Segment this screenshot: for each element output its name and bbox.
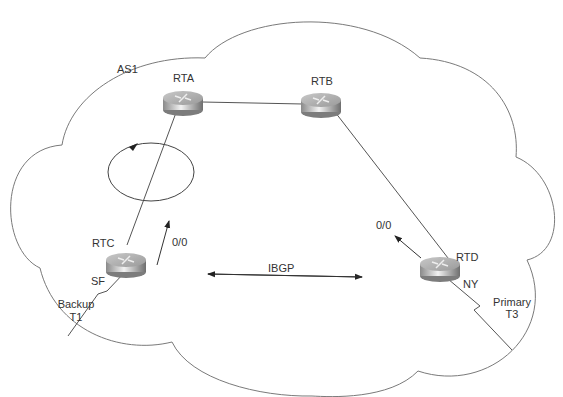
site-label-ny: NY — [463, 278, 478, 290]
primary-link-label-line2: T3 — [490, 308, 534, 320]
router-rtd[interactable] — [420, 257, 460, 282]
router-rtc[interactable] — [106, 253, 146, 278]
router-label-rtc: RTC — [92, 237, 114, 249]
default-route-label-rtd: 0/0 — [376, 219, 391, 231]
link-rta-rtb — [202, 102, 303, 104]
links — [68, 102, 512, 350]
router-label-rtd: RTD — [456, 251, 478, 263]
routing-loop-indicator — [108, 143, 194, 201]
router-rtb[interactable] — [301, 93, 341, 118]
link-rtb-rtd — [335, 112, 448, 258]
as-cloud — [11, 22, 555, 397]
router-rta[interactable] — [163, 91, 203, 116]
router-label-rtb: RTB — [311, 75, 333, 87]
default-route-arrow-rtc — [157, 221, 169, 265]
ibgp-label: IBGP — [268, 262, 294, 274]
router-label-rta: RTA — [173, 72, 194, 84]
link-rta-rtc — [127, 110, 177, 245]
backup-link-label-line1: Backup — [56, 298, 96, 310]
primary-link-label-line1: Primary — [490, 296, 534, 308]
default-route-label-rtc: 0/0 — [172, 236, 187, 248]
site-label-sf: SF — [91, 275, 105, 287]
backup-link-label-line2: T1 — [56, 311, 96, 323]
network-diagram — [0, 0, 563, 397]
ibgp-session-arrow — [208, 274, 362, 277]
as-label: AS1 — [117, 63, 138, 75]
default-route-arrow-rtd — [395, 236, 421, 258]
